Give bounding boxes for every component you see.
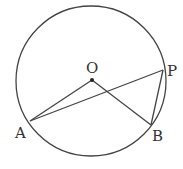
label-P: P — [167, 62, 177, 80]
segment-AP — [30, 70, 163, 121]
label-O: O — [86, 59, 98, 77]
diagram-canvas: O P A B — [0, 0, 183, 169]
circle-diagram: O P A B — [0, 0, 183, 169]
center-point-O — [90, 78, 94, 82]
segment-OB — [92, 80, 151, 125]
label-A: A — [14, 124, 26, 142]
label-B: B — [152, 127, 163, 145]
